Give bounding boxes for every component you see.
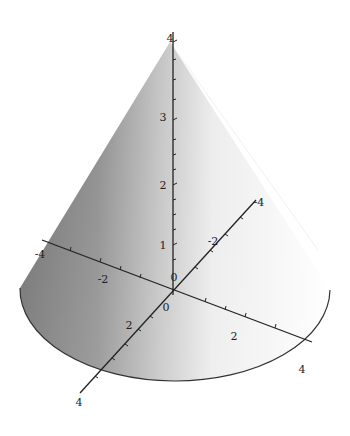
- z-tick-label: 3: [160, 112, 167, 123]
- y-tick-label: 0: [163, 302, 170, 313]
- y-tick-label: 2: [126, 320, 133, 331]
- z-tick-label: 0: [171, 272, 178, 283]
- x-tick-label: -2: [98, 274, 109, 285]
- y-tick-label: -2: [208, 236, 219, 247]
- y-tick-label: -4: [254, 197, 265, 208]
- cone-plot: [0, 0, 350, 436]
- x-tick-label: 4: [299, 364, 306, 375]
- x-tick-label: 2: [231, 331, 238, 342]
- x-tick-label: -4: [35, 249, 46, 260]
- z-tick-label: 4: [167, 33, 174, 44]
- y-tick-label: 4: [76, 397, 83, 408]
- z-tick-label: 1: [160, 240, 167, 251]
- z-tick-label: 2: [160, 180, 167, 191]
